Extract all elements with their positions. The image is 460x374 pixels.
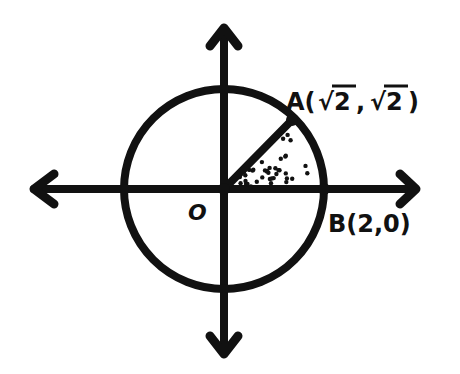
label-A-close: ) [408, 88, 419, 116]
label-B: B(2,0) [328, 210, 411, 238]
label-origin: O [188, 200, 207, 225]
label-A-x: √2 [318, 88, 351, 116]
stipple-dot [305, 171, 309, 175]
stipple-dot [285, 133, 289, 137]
stipple-dot [269, 181, 273, 185]
stipple-dot [260, 175, 264, 179]
stipple-dot [255, 180, 259, 184]
stipple-dot [273, 166, 277, 170]
stipple-dot [281, 137, 285, 141]
diagram-canvas: O A( √2 , √2 ) B(2,0) [0, 0, 460, 374]
radius-OA [224, 120, 292, 189]
label-A-y: √2 [370, 88, 403, 116]
stipple-dot [250, 168, 254, 172]
stipple-dot [283, 154, 287, 158]
point-B [318, 183, 330, 195]
stipple-dot [303, 164, 307, 168]
stipple-dot [285, 176, 289, 180]
label-A-open: A( [286, 88, 316, 116]
stipple-dot [290, 177, 294, 181]
label-A: A( √2 , √2 ) [286, 86, 419, 116]
label-A-sep: , [356, 88, 365, 116]
stipple-dot [238, 181, 242, 185]
stipple-dot [270, 176, 274, 180]
stipple-dot [266, 171, 270, 175]
stipple-dot [274, 172, 278, 176]
stipple-dot [260, 160, 264, 164]
point-O [218, 183, 230, 195]
stipple-dot [277, 168, 281, 172]
stipple-dot [245, 182, 249, 186]
stipple-dot [288, 138, 292, 142]
stipple-dot [279, 157, 283, 161]
stipple-dot [284, 171, 288, 175]
